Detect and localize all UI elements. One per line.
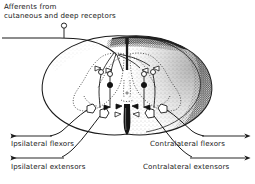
label-ipsilateral-flexors: Ipsilateral flexors	[11, 140, 74, 149]
inhibitory-interneuron	[107, 82, 112, 87]
label-contralateral-extensors: Contralateral extensors	[143, 163, 229, 172]
figure-canvas: Afferents from cutaneous and deep recept…	[0, 0, 255, 184]
label-ipsilateral-extensors: Ipsilateral extensors	[11, 163, 85, 172]
afferent-label-line2: cutaneous and deep receptors	[4, 12, 116, 21]
receptor-icon	[61, 23, 66, 28]
label-contralateral-flexors: Contralateral flexors	[150, 140, 225, 149]
excitatory-interneuron	[151, 70, 156, 75]
inhibitory-interneuron	[141, 82, 146, 87]
spinal-cord-diagram	[0, 0, 255, 184]
